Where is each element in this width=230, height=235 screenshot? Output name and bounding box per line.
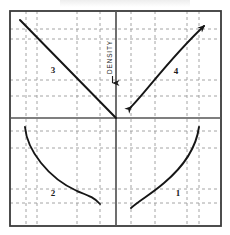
quadrant-label-3: 3	[51, 65, 56, 75]
quadrant-label-1: 1	[176, 188, 181, 198]
curve-quadrant-2	[25, 127, 100, 204]
nomograph-canvas: DENSITY 3 4 2 1	[0, 0, 230, 235]
curve-quadrant-4	[131, 26, 204, 107]
quadrant-label-2: 2	[51, 188, 56, 198]
quadrant-label-4: 4	[174, 66, 179, 76]
density-axis-caption: DENSITY	[106, 40, 113, 83]
curve-quadrant-3	[20, 20, 116, 118]
density-caption-label: DENSITY	[106, 40, 113, 74]
nomograph-figure: DENSITY 3 4 2 1	[0, 0, 230, 235]
curve-quadrant-1	[131, 127, 199, 208]
